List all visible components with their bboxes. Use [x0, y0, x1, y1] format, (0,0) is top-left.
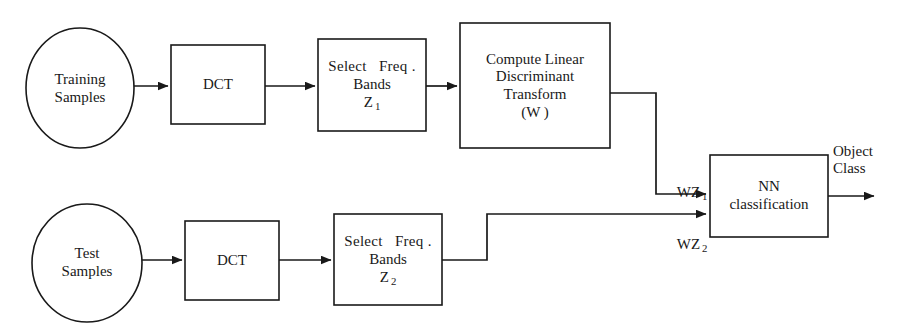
select-freq-top-box — [318, 39, 426, 131]
dct-bottom-box — [185, 221, 279, 300]
test-samples-ellipse — [32, 204, 142, 322]
compute-linear-box — [460, 23, 610, 148]
wz2-edge-label: WZ2 — [662, 219, 707, 271]
training-samples-ellipse — [26, 28, 134, 148]
flowchart-diagram: Training Samples DCT Select Freq . Bands… — [0, 0, 904, 335]
dct-top-box — [171, 45, 265, 124]
select-freq-bottom-box — [334, 214, 442, 305]
wz1-edge-label: WZ1 — [662, 167, 707, 219]
nn-classification-box — [710, 155, 828, 237]
flowchart-canvas — [0, 0, 904, 335]
object-class-label: Object Class — [833, 143, 873, 178]
